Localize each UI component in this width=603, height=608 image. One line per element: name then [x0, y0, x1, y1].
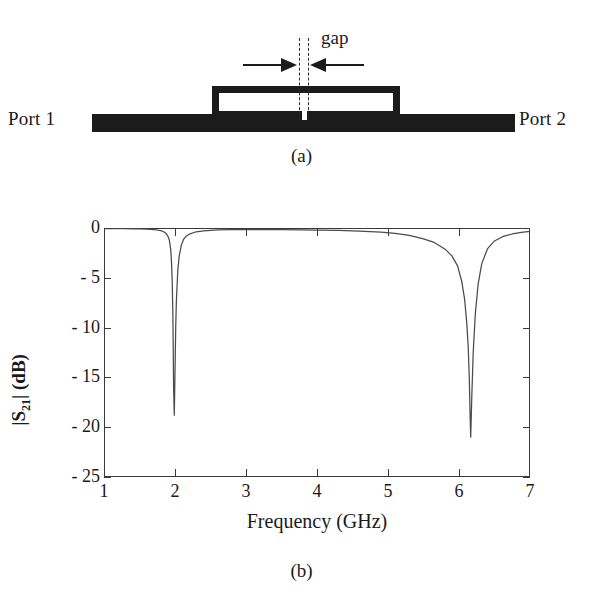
- y-tick-mark: [523, 278, 530, 279]
- y-tick-mark: [523, 477, 530, 478]
- x-tick-mark: [317, 469, 318, 477]
- y-tick-mark: [523, 328, 530, 329]
- x-tick-mark: [388, 469, 389, 477]
- gap-label: gap: [321, 27, 348, 49]
- x-tick-label: 5: [373, 482, 403, 500]
- y-tick-mark: [104, 228, 111, 229]
- arrow-shaft: [243, 64, 283, 66]
- arrow-shaft: [324, 64, 364, 66]
- y-axis-title-box: |S21| (dB): [8, 330, 34, 450]
- gap-dashed-line-left: [299, 38, 300, 120]
- y-axis-title-prefix: |S: [8, 411, 29, 426]
- x-tick-label: 4: [302, 482, 332, 500]
- port-2-label: Port 2: [519, 108, 566, 130]
- resonator-coupling-gap: [302, 109, 307, 120]
- x-axis-title: Frequency (GHz): [104, 510, 530, 533]
- y-tick-label: - 10: [72, 318, 101, 336]
- y-axis-title: |S21| (dB): [8, 330, 34, 450]
- figure: Port 1 Port 2 gap (a) 0- 5- 10- 15- 20- …: [0, 0, 603, 608]
- x-tick-mark: [246, 469, 247, 477]
- x-tick-label: 3: [231, 482, 261, 500]
- y-tick-mark: [104, 328, 111, 329]
- y-tick-mark: [523, 427, 530, 428]
- x-tick-label: 6: [444, 482, 474, 500]
- y-tick-label: 0: [91, 218, 100, 236]
- x-tick-mark: [175, 228, 176, 236]
- arrow-head: [310, 58, 326, 72]
- y-tick-mark: [104, 377, 111, 378]
- panel-b-s21-chart: 0- 5- 10- 15- 20- 25 1234567 |S21| (dB) …: [0, 180, 603, 608]
- y-tick-label: - 15: [72, 367, 101, 385]
- y-axis-title-suffix: | (dB): [8, 354, 29, 399]
- x-tick-label: 2: [160, 482, 190, 500]
- y-tick-label: - 20: [72, 417, 101, 435]
- y-tick-mark: [104, 427, 111, 428]
- panel-b-caption: (b): [0, 560, 603, 582]
- y-tick-mark: [523, 228, 530, 229]
- x-tick-mark: [459, 469, 460, 477]
- panel-a-caption: (a): [0, 145, 603, 167]
- x-tick-mark: [246, 228, 247, 236]
- x-tick-mark: [175, 469, 176, 477]
- y-tick-mark: [523, 377, 530, 378]
- port-1-label: Port 1: [8, 108, 55, 130]
- s21-curve-plot: [104, 228, 530, 477]
- y-tick-mark: [104, 477, 111, 478]
- y-axis-title-sub: 21: [19, 399, 33, 411]
- x-tick-mark: [459, 228, 460, 236]
- panel-a-layout-diagram: Port 1 Port 2 gap (a): [0, 0, 603, 180]
- x-tick-label: 7: [515, 482, 545, 500]
- x-tick-mark: [388, 228, 389, 236]
- gap-dashed-line-right: [308, 38, 309, 120]
- y-tick-mark: [104, 278, 111, 279]
- x-tick-label: 1: [89, 482, 119, 500]
- arrow-head: [281, 58, 297, 72]
- x-tick-mark: [317, 228, 318, 236]
- y-tick-label: - 5: [81, 268, 101, 286]
